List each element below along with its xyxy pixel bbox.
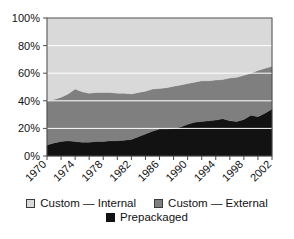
legend-row-secondary: Prepackaged bbox=[106, 211, 188, 223]
chart-legend: Custom — Internal Custom — External Prep… bbox=[0, 197, 294, 223]
ytick-label-40: 40% bbox=[18, 95, 40, 107]
xtick-label-2002: 2002 bbox=[248, 158, 274, 184]
xtick-label-1994: 1994 bbox=[191, 158, 217, 184]
legend-label-custom-internal: Custom — Internal bbox=[40, 197, 136, 209]
xtick-label-1990: 1990 bbox=[163, 158, 189, 184]
legend-row-primary: Custom — Internal Custom — External bbox=[26, 197, 268, 209]
stacked-area-chart: 0%20%40%60%80%100%1970197419781982198619… bbox=[0, 0, 294, 239]
ytick-label-100: 100% bbox=[12, 12, 40, 24]
legend-swatch-prepackaged-icon bbox=[106, 213, 115, 222]
legend-label-prepackaged: Prepackaged bbox=[120, 211, 188, 223]
xtick-label-1982: 1982 bbox=[107, 158, 133, 184]
legend-swatch-custom-internal-icon bbox=[26, 199, 35, 208]
ytick-label-80: 80% bbox=[18, 40, 40, 52]
xtick-label-1978: 1978 bbox=[79, 158, 105, 184]
xtick-label-1986: 1986 bbox=[135, 158, 161, 184]
legend-label-custom-external: Custom — External bbox=[168, 197, 268, 209]
legend-item-prepackaged[interactable]: Prepackaged bbox=[106, 211, 188, 223]
xtick-label-1974: 1974 bbox=[51, 158, 77, 184]
legend-item-custom-internal[interactable]: Custom — Internal bbox=[26, 197, 136, 209]
ytick-label-60: 60% bbox=[18, 67, 40, 79]
legend-swatch-custom-external-icon bbox=[154, 199, 163, 208]
legend-item-custom-external[interactable]: Custom — External bbox=[154, 197, 268, 209]
xtick-label-1998: 1998 bbox=[219, 158, 245, 184]
ytick-label-20: 20% bbox=[18, 122, 40, 134]
